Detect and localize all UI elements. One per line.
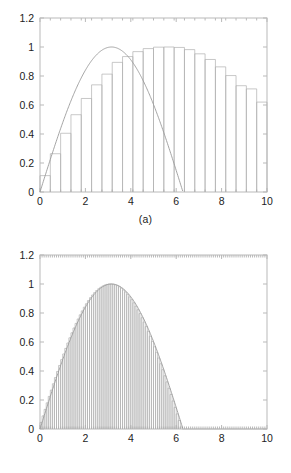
function-curve [40,284,183,429]
riemann-sum-figure: 00.20.40.60.811.20246810 (a) 00.20.40.60… [0,0,291,473]
y-tick-label: 0.4 [19,365,34,377]
x-tick-label: 4 [128,432,134,444]
y-tick-label: 0.2 [19,394,34,406]
y-tick-label: 1 [28,278,34,290]
x-tick-label: 10 [261,195,273,207]
riemann-rectangles [40,47,267,192]
chart-a-plot: 00.20.40.60.811.20246810 [0,0,291,235]
x-tick-label: 4 [128,195,134,207]
y-tick-label: 1.2 [19,249,34,261]
y-tick-label: 0.8 [19,70,34,82]
y-tick-label: 0.6 [19,99,34,111]
chart-b-plot: 00.20.40.60.811.20246810 [0,235,291,473]
function-curve [40,47,183,192]
y-tick-label: 1.2 [19,12,34,24]
x-tick-label: 8 [219,432,225,444]
x-tick-label: 6 [173,195,179,207]
x-tick-label: 0 [37,195,43,207]
chart-a-caption: (a) [0,213,291,225]
y-tick-label: 0 [28,423,34,435]
y-tick-label: 0.8 [19,307,34,319]
x-tick-label: 2 [82,195,88,207]
chart-panel-a: 00.20.40.60.811.20246810 (a) [0,0,291,235]
y-tick-label: 0.2 [19,157,34,169]
y-tick-label: 1 [28,41,34,53]
x-tick-label: 6 [173,432,179,444]
x-tick-label: 8 [219,195,225,207]
y-tick-label: 0.6 [19,336,34,348]
y-tick-label: 0.4 [19,128,34,140]
x-tick-label: 10 [261,432,273,444]
chart-panel-b: 00.20.40.60.811.20246810 (b) [0,235,291,473]
x-tick-label: 2 [82,432,88,444]
riemann-rectangles [40,284,267,429]
y-tick-label: 0 [28,186,34,198]
x-tick-label: 0 [37,432,43,444]
